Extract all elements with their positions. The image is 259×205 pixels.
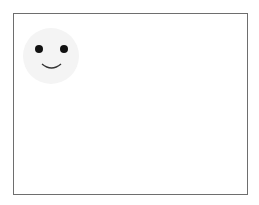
- image-frame: [13, 13, 248, 195]
- smiley-face-icon: [22, 27, 80, 85]
- face-circle: [23, 28, 79, 84]
- left-eye: [35, 45, 43, 53]
- right-eye: [60, 45, 68, 53]
